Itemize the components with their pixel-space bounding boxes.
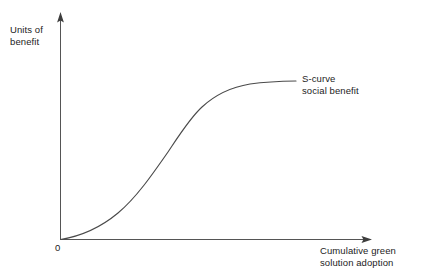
- s-curve-line: [61, 81, 297, 240]
- plot-area: [0, 0, 425, 279]
- y-axis-title-line1: Units of: [10, 24, 43, 36]
- curve-annotation: S-curve social benefit: [302, 73, 359, 96]
- curve-annotation-line1: S-curve: [302, 73, 359, 85]
- x-axis-title-line2: solution adoption: [320, 257, 396, 269]
- origin-tick-label: 0: [55, 242, 60, 254]
- s-curve-figure: Units of benefit 0 Cumulative green solu…: [0, 0, 425, 279]
- y-axis-title: Units of benefit: [10, 24, 43, 47]
- x-axis-title: Cumulative green solution adoption: [320, 245, 396, 268]
- y-axis-title-line2: benefit: [10, 36, 43, 48]
- x-axis-title-line1: Cumulative green: [320, 245, 396, 257]
- curve-annotation-line2: social benefit: [302, 85, 359, 97]
